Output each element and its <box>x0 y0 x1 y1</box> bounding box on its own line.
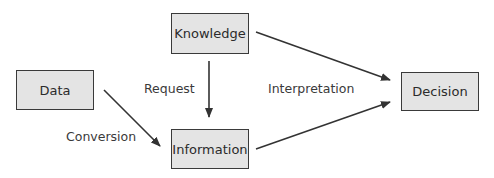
node-knowledge-label: Knowledge <box>174 26 245 41</box>
node-decision-label: Decision <box>412 84 467 99</box>
node-decision: Decision <box>401 72 479 111</box>
arrow-knowledge-to-decision <box>256 32 390 80</box>
edge-label-conversion: Conversion <box>66 129 136 144</box>
node-information: Information <box>171 129 249 169</box>
node-data-label: Data <box>39 83 70 98</box>
node-data: Data <box>16 70 94 110</box>
node-information-label: Information <box>172 142 247 157</box>
edge-label-interpretation: Interpretation <box>268 81 354 96</box>
arrow-information-to-decision <box>256 102 390 149</box>
node-knowledge: Knowledge <box>171 13 249 54</box>
edge-label-request: Request <box>144 81 195 96</box>
